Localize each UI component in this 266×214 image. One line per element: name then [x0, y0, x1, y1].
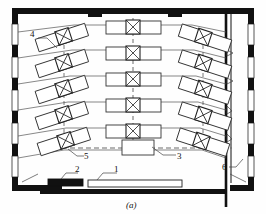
desk-unit-center-5[interactable]	[106, 124, 161, 138]
desk-unit-left-4[interactable]	[35, 100, 89, 129]
leader-1	[97, 173, 117, 180]
wall-right-pier-5	[248, 144, 254, 156]
callout-4: 4	[30, 29, 35, 39]
window-left-1	[12, 24, 18, 45]
leader-3	[152, 147, 176, 155]
desk-unit-center-1[interactable]	[106, 20, 161, 34]
door-leaf-2	[227, 78, 233, 84]
lectern[interactable]	[122, 140, 154, 155]
figure-floor-plan: 1 2 3 4 5 6 (a)	[0, 0, 266, 214]
window-right-5	[248, 156, 254, 177]
desk-unit-left-3[interactable]	[35, 74, 89, 103]
window-left-5	[12, 156, 18, 177]
plan-drawing: 1 2 3 4 5 6 (a)	[0, 0, 266, 214]
right-desk-group	[176, 23, 232, 156]
window-left-4	[12, 123, 18, 144]
platform-stage[interactable]	[88, 180, 182, 187]
desk-unit-right-2[interactable]	[178, 49, 232, 78]
callout-3: 3	[177, 151, 182, 161]
callout-1: 1	[114, 164, 119, 174]
window-left-3	[12, 90, 18, 111]
desk-unit-center-4[interactable]	[106, 98, 161, 112]
wall-right-pier-1	[248, 8, 254, 24]
wall-top	[12, 8, 254, 14]
wall-bottom-right	[230, 185, 254, 191]
callout-6: 6	[222, 162, 227, 172]
wall-right-pier-3	[248, 78, 254, 90]
desk-unit-right-4[interactable]	[178, 101, 232, 130]
pilaster-top-1	[88, 13, 102, 17]
wall-right-pier-2	[248, 45, 254, 57]
window-right-4	[248, 123, 254, 144]
desk-unit-right-3[interactable]	[178, 75, 232, 104]
leader-corner-right	[230, 174, 246, 182]
callout-2: 2	[75, 164, 80, 174]
window-right-3	[248, 90, 254, 111]
center-desk-group	[106, 20, 161, 138]
blackboard[interactable]	[48, 179, 83, 186]
wall-left-pier-2	[12, 45, 18, 57]
wall-left-pier-1	[12, 8, 18, 24]
desk-unit-left-2[interactable]	[35, 48, 89, 77]
callout-5: 5	[84, 151, 89, 161]
figure-caption: (a)	[126, 200, 137, 210]
left-desk-group	[35, 22, 91, 155]
window-right-2	[248, 57, 254, 78]
desk-unit-center-3[interactable]	[106, 72, 161, 86]
pilaster-top-2	[168, 13, 182, 17]
leader-corner-left	[22, 174, 38, 182]
wall-left-pier-5	[12, 144, 18, 156]
wall-bottom-main	[40, 189, 225, 194]
wall-left-pier-4	[12, 111, 18, 123]
window-left-2	[12, 57, 18, 78]
desk-unit-center-2[interactable]	[106, 46, 161, 60]
wall-left-pier-3	[12, 78, 18, 90]
wall-right-pier-4	[248, 111, 254, 123]
window-right-1	[248, 24, 254, 45]
